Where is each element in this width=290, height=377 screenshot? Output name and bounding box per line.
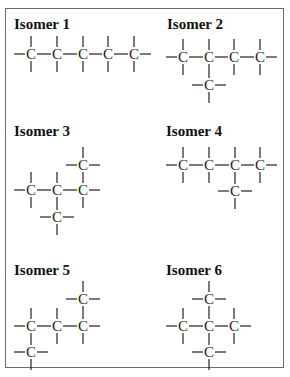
carbon-atom: C [230,183,240,199]
carbon-atom: C [229,318,239,334]
carbon-atom: C [204,157,214,173]
carbon-atom: C [178,49,188,65]
carbon-atom: C [52,318,62,334]
carbon-atom: C [204,77,214,93]
carbon-atom: C [178,318,188,334]
carbon-atom: C [204,291,214,307]
carbon-atom: C [78,46,88,62]
carbon-atom: C [52,209,62,225]
carbon-atom: C [52,46,62,62]
carbon-atom: C [52,182,62,198]
isomer-structures: CCCCCCCCCCCCCCCCCCCCCCCCCCCCCC [0,0,290,377]
carbon-atom: C [204,344,214,360]
carbon-atom: C [255,157,265,173]
carbon-atom: C [204,318,214,334]
carbon-atom: C [178,157,188,173]
carbon-atom: C [78,291,88,307]
carbon-atom: C [204,49,214,65]
carbon-atom: C [129,46,139,62]
carbon-atom: C [26,318,36,334]
carbon-atom: C [78,318,88,334]
carbon-atom: C [78,182,88,198]
carbon-atom: C [26,182,36,198]
carbon-atom: C [230,157,240,173]
carbon-atom: C [229,49,239,65]
carbon-atom: C [26,46,36,62]
carbon-atom: C [255,49,265,65]
carbon-atom: C [103,46,113,62]
carbon-atom: C [26,344,36,360]
carbon-atom: C [78,157,88,173]
